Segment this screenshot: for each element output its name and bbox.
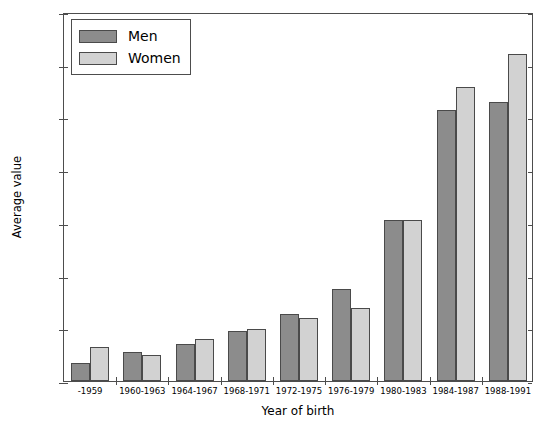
x-tick-mark [273, 381, 274, 385]
x-tick-mark-inner [482, 377, 483, 381]
bar-men-2 [176, 344, 195, 381]
y-tick-mark-right [528, 172, 532, 173]
y-tick-mark-inner [64, 330, 68, 331]
y-tick-mark-inner [64, 278, 68, 279]
bar-men-7 [437, 110, 456, 381]
y-tick-mark-right [528, 119, 532, 120]
legend-swatch-men-icon [79, 30, 117, 43]
y-tick-mark-inner [64, 119, 68, 120]
x-tick-label: -1959 [78, 386, 103, 396]
bar-men-5 [332, 289, 351, 381]
bar-men-4 [280, 314, 299, 381]
x-tick-label: 1988-1991 [485, 386, 531, 396]
x-tick-label: 1976-1979 [328, 386, 374, 396]
x-tick-mark-inner [325, 377, 326, 381]
x-tick-label: 1960-1963 [119, 386, 165, 396]
bar-men-8 [489, 102, 508, 381]
y-tick-mark-right [528, 14, 532, 15]
x-tick-mark-inner [168, 377, 169, 381]
x-tick-mark [482, 381, 483, 385]
x-tick-mark [325, 381, 326, 385]
bar-men-0 [71, 363, 90, 381]
x-tick-mark [116, 381, 117, 385]
y-tick-mark-inner [64, 383, 68, 384]
bar-women-4 [299, 318, 318, 381]
x-tick-mark-inner [430, 377, 431, 381]
y-tick-mark-right [528, 225, 532, 226]
y-tick-mark-inner [64, 172, 68, 173]
x-tick-mark-inner [116, 377, 117, 381]
bar-women-0 [90, 347, 109, 381]
x-tick-label: 1964-1967 [171, 386, 217, 396]
y-tick-mark-inner [64, 14, 68, 15]
bar-men-3 [228, 331, 247, 381]
y-tick-mark-right [528, 383, 532, 384]
x-tick-mark-inner [377, 377, 378, 381]
y-tick-mark-right [528, 67, 532, 68]
plot-area: 0.000.010.020.030.040.050.060.07 -195919… [63, 13, 533, 382]
chart-legend: Men Women [71, 19, 191, 75]
bar-women-3 [247, 329, 266, 381]
x-tick-mark [221, 381, 222, 385]
legend-label-men: Men [128, 28, 158, 44]
x-tick-mark [430, 381, 431, 385]
bar-chart-figure: Average value 0.000.010.020.030.040.050.… [0, 0, 546, 424]
bar-women-5 [351, 308, 370, 381]
bar-men-6 [384, 220, 403, 381]
y-tick-mark-inner [64, 225, 68, 226]
y-tick-mark-right [528, 330, 532, 331]
bar-women-8 [508, 54, 527, 381]
bar-women-7 [456, 87, 475, 381]
bar-women-1 [142, 355, 161, 381]
x-tick-label: 1972-1975 [276, 386, 322, 396]
y-axis-title: Average value [10, 107, 24, 287]
legend-label-women: Women [128, 50, 181, 66]
x-tick-mark-inner [273, 377, 274, 381]
x-tick-label: 1968-1971 [224, 386, 270, 396]
y-tick-mark-right [528, 278, 532, 279]
x-tick-mark [377, 381, 378, 385]
y-tick-mark-inner [64, 67, 68, 68]
bar-women-2 [195, 339, 214, 381]
x-tick-mark [168, 381, 169, 385]
bar-men-1 [123, 352, 142, 381]
legend-swatch-women-icon [79, 52, 117, 65]
x-axis-title: Year of birth [63, 404, 533, 418]
x-tick-mark-inner [221, 377, 222, 381]
legend-item-men: Men [79, 25, 181, 47]
bar-women-6 [403, 220, 422, 381]
x-tick-label: 1980-1983 [380, 386, 426, 396]
legend-item-women: Women [79, 47, 181, 69]
x-tick-label: 1984-1987 [432, 386, 478, 396]
